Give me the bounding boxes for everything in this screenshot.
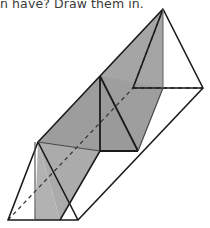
prism-diagram	[0, 0, 210, 228]
upper-left-dark-wedge	[38, 76, 100, 151]
figure-container: n have? Draw them in.	[0, 0, 210, 228]
